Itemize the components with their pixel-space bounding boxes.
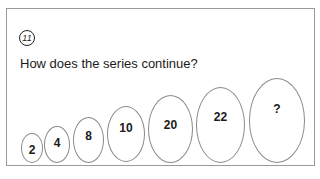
series-value: ?	[273, 102, 280, 116]
series-oval-1: 2	[21, 133, 43, 163]
series-oval-5: 20	[148, 95, 193, 163]
series-oval-6: 22	[196, 87, 245, 163]
series-value: 2	[29, 143, 36, 157]
series-value: 22	[214, 110, 227, 124]
series-value: 10	[119, 121, 132, 135]
series-value: 8	[85, 129, 92, 143]
series-oval-2: 4	[44, 126, 70, 163]
series-oval-7: ?	[249, 78, 305, 163]
question-number-badge: 11	[19, 30, 35, 46]
question-text: How does the series continue?	[20, 56, 198, 71]
series-oval-3: 8	[73, 117, 104, 163]
series-value: 4	[54, 136, 61, 150]
series-oval-4: 10	[107, 106, 145, 162]
series-value: 20	[164, 118, 177, 132]
